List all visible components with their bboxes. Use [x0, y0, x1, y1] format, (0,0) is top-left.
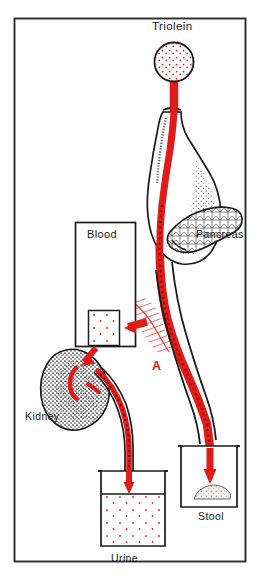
label-kidney: Kidney — [25, 410, 60, 422]
label-blood: Blood — [87, 228, 117, 240]
label-triolein: Triolein — [152, 20, 192, 32]
triolein-absorption-diagram — [0, 0, 260, 576]
blood-sample-box — [89, 311, 120, 346]
label-marker-a: A — [152, 359, 161, 373]
label-stool: Stool — [198, 510, 224, 522]
label-urine: Urine — [111, 552, 138, 564]
triolein-circle — [155, 43, 194, 82]
label-pancreas: Pancreas — [196, 228, 244, 240]
